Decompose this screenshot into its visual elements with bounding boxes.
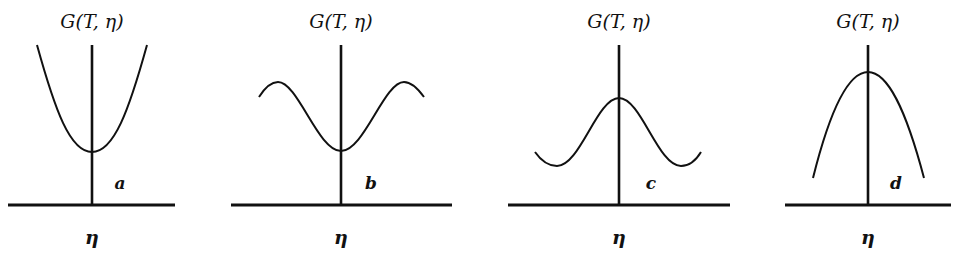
x-axis-label: η: [334, 226, 348, 248]
panel-a: G(T, η) a η: [8, 10, 175, 248]
x-axis-label: η: [612, 226, 626, 248]
y-axis-label: G(T, η): [836, 10, 899, 32]
y-axis-label: G(T, η): [309, 10, 372, 32]
panel-d: G(T, η) d η: [785, 10, 951, 248]
y-axis-label: G(T, η): [60, 10, 123, 32]
panel-tag: b: [365, 173, 377, 193]
panel-tag: a: [114, 173, 125, 193]
y-axis-label: G(T, η): [587, 10, 650, 32]
x-axis-label: η: [85, 226, 99, 248]
panel-tag: c: [646, 173, 657, 193]
panel-b: G(T, η) b η: [231, 10, 452, 248]
panel-c: G(T, η) c η: [508, 10, 730, 248]
free-energy-diagram: G(T, η) a η G(T, η) b η G(T, η) c η G(T,…: [0, 0, 954, 254]
x-axis-label: η: [861, 226, 875, 248]
panel-tag: d: [890, 173, 902, 193]
